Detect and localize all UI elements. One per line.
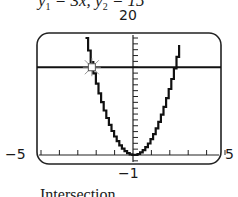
calculator-screen (0, 0, 238, 197)
screen-frame (37, 33, 221, 164)
intersection-marker-icon (88, 64, 95, 71)
